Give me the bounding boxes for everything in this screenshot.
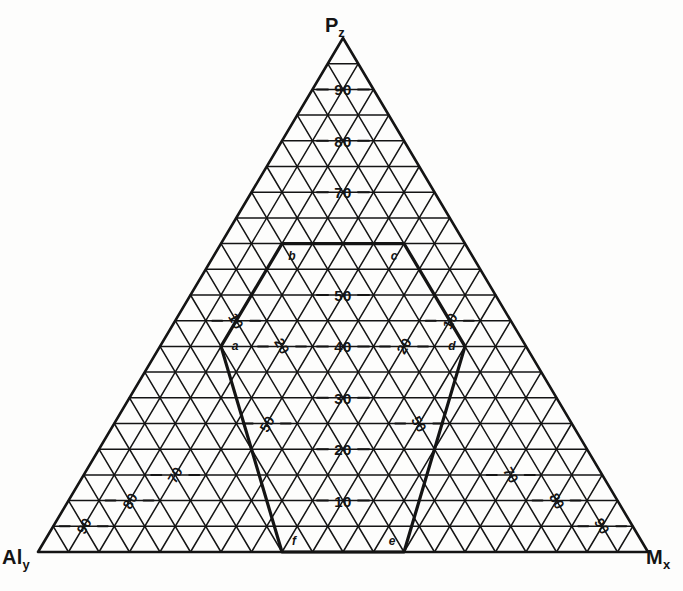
- tick-label-p-30: 30: [334, 389, 352, 406]
- region-vertex-label-d: d: [448, 339, 455, 353]
- tick-label-p-90: 90: [334, 81, 352, 98]
- tick-label-p-80: 80: [334, 132, 352, 149]
- tick-label-p-20: 20: [334, 441, 352, 458]
- tick-label-p-50: 50: [334, 287, 352, 304]
- region-vertex-label-c: c: [391, 249, 398, 263]
- apex-label-pz: Pz: [325, 14, 345, 40]
- region-vertex-label-b: b: [288, 249, 295, 263]
- tick-label-p-70: 70: [334, 184, 352, 201]
- ternary-diagram-figure: Pz Aly Mx 908070504030201010205070809010…: [0, 0, 683, 591]
- corner-label-mx: Mx: [646, 546, 671, 572]
- region-vertex-label-a: a: [232, 339, 239, 353]
- tick-label-p-40: 40: [334, 338, 352, 355]
- region-vertex-label-e: e: [389, 534, 396, 548]
- tick-marks: [60, 89, 627, 526]
- corner-label-aly: Aly: [2, 546, 30, 572]
- tick-label-p-10: 10: [334, 492, 352, 509]
- region-vertex-label-f: f: [292, 534, 296, 548]
